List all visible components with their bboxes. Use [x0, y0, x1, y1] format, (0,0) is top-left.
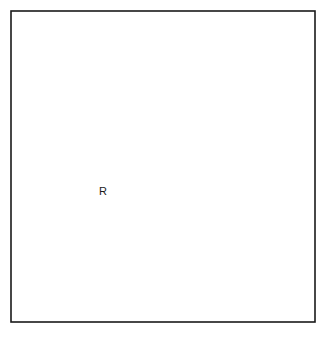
contour-map-canvas: RR: [0, 0, 329, 337]
peak-label-R: R: [99, 185, 107, 197]
contour-labels-group: RR: [99, 185, 107, 197]
contour-map-figure: RR: [0, 0, 329, 337]
figure-frame-border: [11, 11, 315, 322]
